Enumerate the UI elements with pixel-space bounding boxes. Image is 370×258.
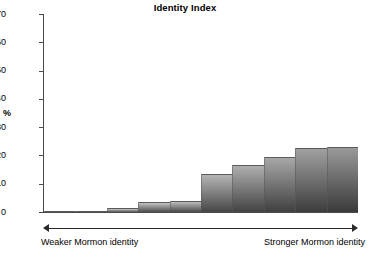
chart-title: Identity Index xyxy=(0,2,370,13)
y-tick-mark xyxy=(39,184,43,185)
bar-series xyxy=(44,14,358,212)
bar xyxy=(107,208,138,212)
y-tick-label: 40 xyxy=(0,94,6,103)
plot-area: 706050403020100 xyxy=(43,14,358,212)
bar xyxy=(75,211,106,212)
y-tick-label: 50 xyxy=(0,66,6,75)
y-tick-label: 10 xyxy=(0,179,6,188)
y-tick-mark xyxy=(39,127,43,128)
bar xyxy=(170,201,201,212)
y-tick-mark xyxy=(39,99,43,100)
axis-label-stronger: Stronger Mormon identity xyxy=(264,237,365,247)
y-tick-label: 0 xyxy=(0,208,6,217)
y-tick-mark xyxy=(39,42,43,43)
arrow-right-icon xyxy=(352,224,358,232)
bar xyxy=(201,174,232,212)
y-tick-label: 20 xyxy=(0,151,6,160)
y-tick-mark xyxy=(39,155,43,156)
bar xyxy=(295,148,326,212)
axis-label-weaker: Weaker Mormon identity xyxy=(41,237,138,247)
identity-axis-arrow xyxy=(43,224,358,233)
chart-figure: Identity Index % 706050403020100 Weaker … xyxy=(0,0,370,258)
bar xyxy=(138,202,169,212)
arrow-line xyxy=(47,228,354,229)
y-tick-mark xyxy=(39,71,43,72)
y-tick-mark xyxy=(39,14,43,15)
bar xyxy=(232,165,263,212)
y-tick-label: 70 xyxy=(0,10,6,19)
y-tick-label: 30 xyxy=(0,123,6,132)
bar xyxy=(44,211,75,212)
y-tick-mark xyxy=(39,212,43,213)
x-axis-line xyxy=(43,212,358,213)
y-axis-title: % xyxy=(3,108,11,118)
y-tick-label: 60 xyxy=(0,38,6,47)
bar xyxy=(264,157,295,212)
bar xyxy=(327,147,358,212)
